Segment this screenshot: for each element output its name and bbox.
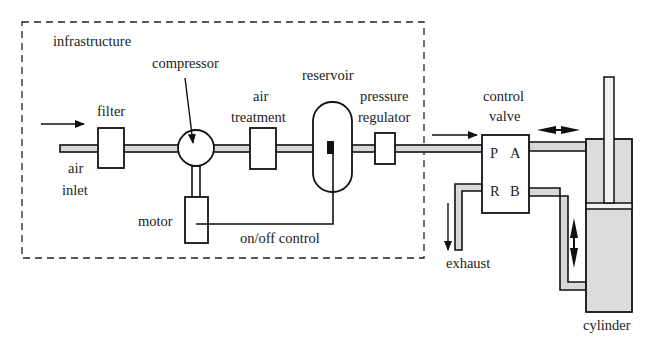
pressure-regulator-box <box>375 133 395 164</box>
piston <box>586 203 632 209</box>
cylinder-label: cylinder <box>583 317 631 333</box>
port-b-pipe <box>529 188 586 290</box>
compressor-circle <box>178 130 214 166</box>
air-treatment-label-line2: treatment <box>231 109 286 125</box>
port-a-bidirectional-arrow-icon <box>537 126 580 134</box>
port-b-bidirectional-arrow-icon <box>570 218 578 268</box>
piston-rod <box>604 77 614 203</box>
pressure-regulator-label-line2: regulator <box>358 109 411 125</box>
filter-box <box>98 128 124 168</box>
control-valve-label-line2: valve <box>489 108 520 124</box>
infrastructure-boundary <box>22 22 424 258</box>
reservoir-label: reservoir <box>302 67 354 83</box>
pneumatic-system-diagram: P A R B infrastructure compressor reserv… <box>0 0 658 346</box>
port-a-label: A <box>510 145 521 161</box>
cylinder <box>586 77 632 312</box>
port-b-label: B <box>510 183 520 199</box>
compressor-label: compressor <box>152 55 219 71</box>
port-r-label: R <box>490 183 500 199</box>
air-inlet-label-line1: air <box>68 160 83 176</box>
air-treatment-label-line1: air <box>253 88 268 104</box>
pressure-regulator-label-line1: pressure <box>360 88 408 104</box>
air-inlet-label-line2: inlet <box>62 182 88 198</box>
infrastructure-label: infrastructure <box>53 33 131 49</box>
motor-box <box>185 197 208 243</box>
pressure-sensor-icon <box>327 141 334 154</box>
filter-label: filter <box>97 103 125 119</box>
port-p-label: P <box>490 145 498 161</box>
air-treatment-box <box>250 128 276 169</box>
motor-label: motor <box>138 213 173 229</box>
control-valve-label-line1: control <box>483 88 524 104</box>
on-off-control-label: on/off control <box>240 230 320 246</box>
exhaust-label: exhaust <box>446 255 490 271</box>
exhaust-pipe <box>455 184 482 250</box>
port-a-pipe <box>529 142 586 151</box>
motor-shaft <box>192 166 200 197</box>
